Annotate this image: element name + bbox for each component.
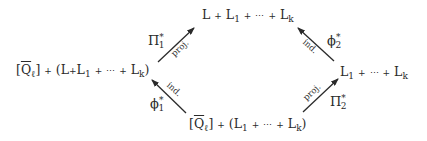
label-phi1: ϕ*1 xyxy=(150,96,164,113)
label-pi1: Π*1 xyxy=(148,33,165,50)
symbol: Π xyxy=(330,94,341,109)
subscript: 2 xyxy=(341,101,347,111)
subscript: 2 xyxy=(335,40,341,50)
arrows-layer xyxy=(0,0,427,141)
symbol: Π xyxy=(148,33,159,48)
subscript: 1 xyxy=(159,40,165,50)
subscript: 1 xyxy=(158,103,164,113)
label-pi2: Π*2 xyxy=(330,94,347,111)
label-phi2: ϕ*2 xyxy=(327,33,341,50)
